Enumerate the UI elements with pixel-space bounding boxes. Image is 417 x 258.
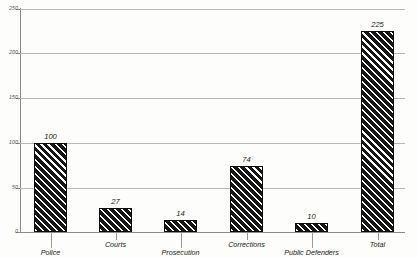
y-tick-label-100: 100 [0, 140, 18, 145]
x-tick-total [378, 233, 379, 240]
x-tick-courts [116, 233, 117, 240]
value-label-corrections: 74 [242, 156, 250, 164]
x-label-courts: Courts [105, 241, 126, 248]
value-label-courts: 27 [111, 198, 119, 206]
x-tick-corrections [247, 233, 248, 240]
x-label-police: Police [41, 249, 61, 256]
y-tick-label-200: 200 [0, 50, 18, 55]
bar-total[interactable] [361, 31, 394, 232]
bar-public-defenders[interactable] [295, 223, 328, 232]
bars-layer [20, 9, 405, 232]
value-label-police: 100 [44, 133, 57, 141]
y-tick-label-250: 250 [0, 6, 18, 11]
y-tick-label-50: 50 [0, 185, 18, 190]
bar-corrections[interactable] [230, 166, 263, 232]
x-tick-police [51, 233, 52, 248]
y-tick-label-150: 150 [0, 95, 18, 100]
x-axis-baseline [20, 232, 405, 233]
value-label-public-defenders: 10 [307, 213, 315, 221]
y-axis-ticks: 250 200 150 100 50 0 [0, 0, 18, 258]
value-label-prosecution: 14 [176, 210, 184, 218]
bar-police[interactable] [34, 143, 67, 232]
bar-prosecution[interactable] [164, 220, 197, 233]
bar-courts[interactable] [99, 208, 132, 232]
x-label-prosecution: Prosecution [162, 249, 200, 256]
x-label-corrections: Corrections [228, 241, 265, 248]
x-tick-public-defenders [312, 233, 313, 248]
bar-chart: 250 200 150 100 50 0 100 27 14 74 10 225… [0, 0, 417, 258]
x-label-total: Total [370, 241, 385, 248]
x-label-public-defenders: Public Defenders [284, 249, 339, 256]
y-tick-label-0: 0 [0, 229, 18, 234]
x-tick-prosecution [181, 233, 182, 248]
value-label-total: 225 [371, 21, 384, 29]
